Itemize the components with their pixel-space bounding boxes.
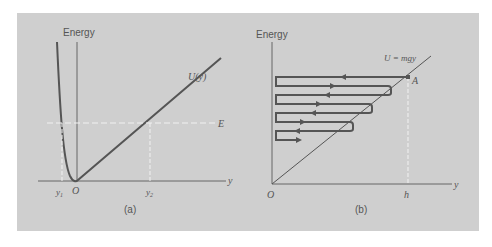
panel-b: Energy y U = mgy A O h (b) — [256, 29, 459, 215]
y-label: y — [453, 179, 459, 190]
caption-b: (b) — [355, 204, 367, 215]
caption-a: (a) — [124, 204, 136, 215]
potential-curve — [57, 42, 221, 181]
y-label: y — [227, 175, 233, 186]
panel-a: Energy y U(y) E y1 O y2 (a) — [38, 27, 233, 215]
origin-label: O — [267, 189, 274, 200]
point-a-label: A — [411, 75, 419, 86]
h-label: h — [404, 189, 409, 200]
energy-level-label: E — [217, 118, 224, 129]
energy-label: Energy — [63, 27, 95, 38]
curve-label: U(y) — [188, 71, 207, 83]
energy-diagrams: Energy y U(y) E y1 O y2 (a) Energy y U =… — [0, 0, 492, 247]
y1-label: y1 — [55, 187, 63, 198]
line-label: U = mgy — [384, 53, 416, 63]
origin-label: O — [72, 185, 79, 196]
y2-label: y2 — [145, 187, 153, 198]
direction-arrows — [294, 74, 346, 143]
energy-label: Energy — [256, 29, 288, 40]
